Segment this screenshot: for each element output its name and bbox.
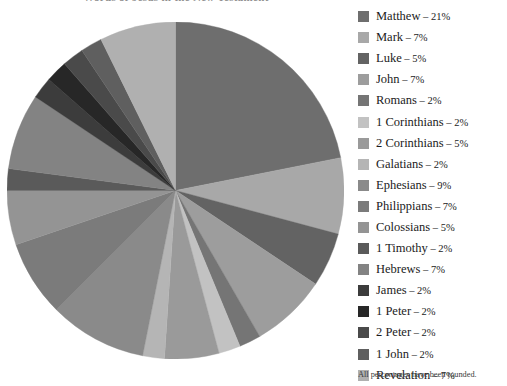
legend-item[interactable]: 1 Peter – 2% [358, 301, 507, 322]
chart-footnote: All percentages have been rounded. [358, 370, 507, 379]
legend-item-label: John – 7% [376, 73, 424, 86]
legend-item[interactable]: Ephesians – 9% [358, 175, 507, 196]
legend-item[interactable]: John – 7% [358, 69, 507, 90]
legend-swatch-icon [358, 243, 369, 254]
legend-item[interactable]: 1 Corinthians – 2% [358, 111, 507, 132]
legend-item-name: 2 Peter [376, 325, 411, 339]
legend-item-name: James [376, 283, 407, 297]
legend-item-name: Mark [376, 30, 403, 44]
legend-item-label: Galatians – 2% [376, 158, 448, 171]
legend-swatch-icon [358, 306, 369, 317]
legend-item[interactable]: 1 Timothy – 2% [358, 238, 507, 259]
legend-swatch-icon [358, 159, 369, 170]
legend-item-name: Galatians [376, 157, 423, 171]
legend-item[interactable]: Mark – 7% [358, 27, 507, 48]
legend-item-name: 2 Corinthians [376, 136, 444, 150]
legend-item-label: Ephesians – 9% [376, 179, 451, 192]
legend-item-value: – 7% [432, 201, 457, 212]
legend-swatch-icon [358, 327, 369, 338]
legend-item-value: – 2% [417, 95, 442, 106]
legend-item-label: Romans – 2% [376, 94, 441, 107]
legend-item-label: Luke – 5% [376, 52, 426, 65]
legend-item-value: – 9% [427, 180, 452, 191]
page-title: Words of Jesus in the New Testament [0, 0, 352, 2]
legend-swatch-icon [358, 180, 369, 191]
legend-swatch-icon [358, 349, 369, 360]
legend-item[interactable]: James – 2% [358, 280, 507, 301]
legend-swatch-icon [358, 117, 369, 128]
legend-item-label: Hebrews – 7% [376, 263, 445, 276]
legend-item-value: – 2% [444, 117, 469, 128]
legend-item[interactable]: Hebrews – 7% [358, 259, 507, 280]
legend-item-label: 2 Peter – 2% [376, 326, 436, 339]
legend-item-label: 1 Corinthians – 2% [376, 116, 468, 129]
legend-item-name: 1 John [376, 347, 409, 361]
legend-item[interactable]: Colossians – 5% [358, 217, 507, 238]
pie-chart [7, 22, 344, 359]
legend-item-value: – 7% [400, 74, 425, 85]
legend-item-label: 1 Peter – 2% [376, 305, 436, 318]
legend-swatch-icon [358, 222, 369, 233]
legend-item-value: – 5% [444, 138, 469, 149]
legend-item-value: – 5% [430, 222, 455, 233]
legend-item-value: – 5% [402, 53, 427, 64]
legend-item-label: Philippians – 7% [376, 200, 457, 213]
legend-swatch-icon [358, 95, 369, 106]
legend-item-value: – 7% [420, 264, 445, 275]
legend-item[interactable]: Philippians – 7% [358, 196, 507, 217]
legend-item-name: 1 Timothy [376, 241, 428, 255]
legend-item-value: – 2% [428, 243, 453, 254]
chart-canvas: Words of Jesus in the New Testament Matt… [0, 0, 507, 386]
legend-item[interactable]: Galatians – 2% [358, 154, 507, 175]
legend-item-value: – 2% [411, 306, 436, 317]
pie-chart-svg [7, 22, 344, 359]
legend-item-name: Colossians [376, 220, 430, 234]
legend-swatch-icon [358, 53, 369, 64]
legend-item-name: John [376, 72, 400, 86]
chart-legend: Matthew – 21%Mark – 7%Luke – 5%John – 7%… [358, 6, 507, 386]
legend-item-name: 1 Corinthians [376, 115, 444, 129]
legend-swatch-icon [358, 138, 369, 149]
legend-item-label: 2 Corinthians – 5% [376, 137, 468, 150]
legend-swatch-icon [358, 264, 369, 275]
legend-item-name: 1 Peter [376, 304, 411, 318]
legend-swatch-icon [358, 74, 369, 85]
legend-item-label: 1 Timothy – 2% [376, 242, 452, 255]
legend-swatch-icon [358, 11, 369, 22]
legend-item-name: Matthew [376, 9, 420, 23]
legend-item-value: – 2% [407, 285, 432, 296]
legend-item[interactable]: 2 Peter – 2% [358, 322, 507, 343]
legend-item-value: – 21% [420, 11, 450, 22]
legend-item-label: James – 2% [376, 284, 431, 297]
legend-item-value: – 2% [423, 159, 448, 170]
legend-item-label: Matthew – 21% [376, 10, 450, 23]
legend-item-label: Colossians – 5% [376, 221, 455, 234]
legend-item-value: – 2% [411, 327, 436, 338]
legend-item-value: – 7% [403, 32, 428, 43]
legend-item-name: Hebrews [376, 262, 420, 276]
legend-item[interactable]: 1 John – 2% [358, 344, 507, 365]
legend-item-value: – 2% [409, 349, 434, 360]
legend-item-name: Luke [376, 51, 402, 65]
legend-item-label: 1 John – 2% [376, 348, 434, 361]
legend-item-label: Mark – 7% [376, 31, 428, 44]
legend-swatch-icon [358, 32, 369, 43]
legend-swatch-icon [358, 201, 369, 212]
pie-slice-group [7, 22, 344, 359]
legend-item[interactable]: 2 Corinthians – 5% [358, 133, 507, 154]
legend-item[interactable]: Matthew – 21% [358, 6, 507, 27]
legend-item[interactable]: Romans – 2% [358, 90, 507, 111]
legend-item[interactable]: Luke – 5% [358, 48, 507, 69]
legend-item-name: Romans [376, 93, 417, 107]
legend-swatch-icon [358, 285, 369, 296]
legend-item-name: Philippians [376, 199, 432, 213]
legend-item-name: Ephesians [376, 178, 427, 192]
